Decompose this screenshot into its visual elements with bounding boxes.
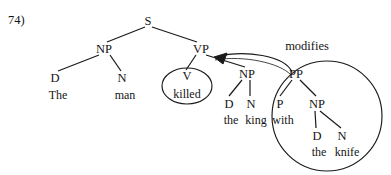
node-np-subject: NP — [96, 43, 112, 56]
node-v-killed: V — [182, 70, 191, 83]
node-s: S — [145, 15, 152, 28]
modifies-label: modifies — [285, 40, 329, 53]
branch-pp-to-np-oblique — [300, 80, 316, 96]
branch-np-oblique-to-n-knife — [320, 111, 341, 128]
node-pp: PP — [289, 68, 303, 81]
syntax-tree-figure: 74) S NP VP modifies D N V NP PP The man… — [0, 0, 391, 175]
item-number: 74) — [8, 14, 25, 27]
branch-np-oblique-to-d — [315, 111, 316, 128]
word-the-subject: The — [49, 89, 68, 101]
branch-np-to-d-the — [58, 55, 99, 71]
word-man: man — [115, 89, 136, 101]
branch-s-to-vp — [152, 27, 197, 42]
node-d-the-object: D — [224, 98, 233, 111]
branch-s-to-np — [107, 27, 145, 42]
branch-np-to-n-man — [110, 55, 121, 71]
node-np-oblique: NP — [309, 98, 325, 111]
word-knife: knife — [335, 146, 360, 158]
node-n-king: N — [246, 98, 255, 111]
node-d-the-oblique: D — [312, 130, 321, 143]
node-d-the-subject: D — [50, 72, 59, 85]
node-vp: VP — [193, 43, 209, 56]
node-n-knife: N — [337, 130, 346, 143]
word-the-object: the — [224, 114, 239, 126]
node-np-object: NP — [239, 68, 255, 81]
branch-np-object-to-d — [229, 80, 242, 96]
node-n-man: N — [117, 72, 126, 85]
word-with: with — [272, 114, 293, 126]
branch-pp-to-p-with — [280, 80, 292, 96]
node-p-with: P — [277, 98, 284, 111]
word-killed: killed — [173, 88, 200, 100]
word-king: king — [245, 114, 266, 126]
word-the-oblique: the — [312, 146, 327, 158]
